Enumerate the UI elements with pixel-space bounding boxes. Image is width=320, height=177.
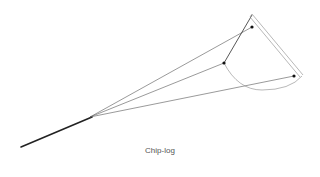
bridle-cord-middle [90,63,224,117]
log-line [21,117,92,147]
pin-left [222,61,225,64]
diagram-caption: Chip-log [0,146,320,155]
bridle-cord-top [90,27,252,117]
pin-right [292,74,295,77]
pin-top [250,25,253,28]
board-right-edge-inner [250,17,300,77]
board-left-edge [224,15,252,63]
board-right-edge-outer [252,14,303,75]
bridle-cord-bottom [90,76,294,117]
